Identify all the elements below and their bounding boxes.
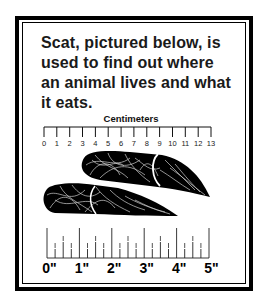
cm-label: 9 <box>158 139 162 148</box>
inch-labels: 0" 1" 2" 3" 4" 5" <box>42 260 218 276</box>
cm-label: 13 <box>207 139 215 148</box>
cm-label: 4 <box>93 139 97 148</box>
cm-label: 6 <box>119 139 123 148</box>
inch-label: 3" <box>139 260 153 276</box>
scat-lower-piece <box>44 183 178 216</box>
cm-label: 1 <box>55 139 59 148</box>
diagram-canvas: 0 1 2 3 4 5 6 7 8 9 10 11 12 13 <box>0 0 264 302</box>
cm-label: 10 <box>168 139 176 148</box>
cm-label: 5 <box>106 139 110 148</box>
inch-label: 5" <box>204 260 218 276</box>
centimeter-labels: 0 1 2 3 4 5 6 7 8 9 10 11 12 13 <box>42 139 215 148</box>
cm-label: 12 <box>194 139 202 148</box>
centimeter-ruler <box>44 127 211 137</box>
cm-label: 0 <box>42 139 46 148</box>
cm-label: 3 <box>80 139 84 148</box>
inch-label: 2" <box>107 260 121 276</box>
cm-label: 7 <box>132 139 136 148</box>
inch-label: 1" <box>75 260 89 276</box>
cm-label: 8 <box>145 139 149 148</box>
cm-label: 2 <box>68 139 72 148</box>
cm-label: 11 <box>181 139 189 148</box>
inch-label: 4" <box>172 260 186 276</box>
inch-label: 0" <box>42 260 56 276</box>
